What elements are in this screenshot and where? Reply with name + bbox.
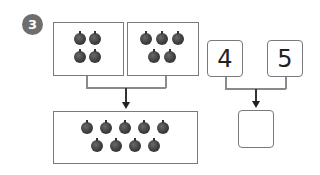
apple-icon <box>74 33 86 45</box>
addend-box-2: 5 <box>267 40 303 77</box>
arrow-down-icon <box>122 102 130 109</box>
apple-icon <box>148 140 160 152</box>
apple-icon <box>100 122 112 134</box>
apple-group-combined <box>53 111 198 164</box>
connector-line <box>125 88 127 103</box>
apple-icon <box>164 51 176 63</box>
arrow-down-icon <box>252 101 260 108</box>
apple-group-a <box>53 22 124 76</box>
apple-icon <box>129 140 141 152</box>
apple-icon <box>119 122 131 134</box>
apple-icon <box>148 51 160 63</box>
apple-icon <box>156 33 168 45</box>
answer-box[interactable] <box>238 110 274 148</box>
addend-box-1: 4 <box>207 40 243 77</box>
problem-number-badge: 3 <box>22 14 43 35</box>
apple-icon <box>172 33 184 45</box>
apple-icon <box>74 51 86 63</box>
apple-icon <box>91 140 103 152</box>
apple-icon <box>138 122 150 134</box>
apple-icon <box>110 140 122 152</box>
apple-icon <box>157 122 169 134</box>
apple-icon <box>140 33 152 45</box>
apple-icon <box>89 33 101 45</box>
apple-icon <box>81 122 93 134</box>
apple-group-b <box>127 22 199 76</box>
apple-icon <box>89 51 101 63</box>
